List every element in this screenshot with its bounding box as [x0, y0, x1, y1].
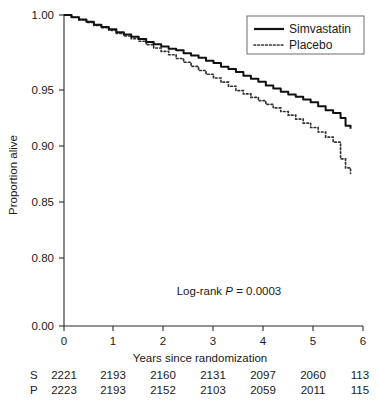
- risk-cell-s-3: 2131: [200, 369, 226, 381]
- risk-cell-p-3: 2103: [200, 384, 226, 396]
- x-tick-label-5: 5: [310, 335, 316, 347]
- risk-cell-p-1: 2193: [100, 384, 126, 396]
- x-tick-label-3: 3: [210, 335, 216, 347]
- risk-cell-p-2: 2152: [150, 384, 176, 396]
- survival-curve-figure: 1.00 0.95 0.90 0.85 0.80 0.00 Proportion…: [0, 0, 379, 405]
- logrank-prefix: Log-rank: [177, 285, 226, 297]
- y-axis-title: Proportion alive: [7, 135, 19, 215]
- risk-table-row-p: P 2223 2193 2152 2103 2059 2011 115: [30, 384, 369, 396]
- risk-cell-p-0: 2223: [51, 384, 77, 396]
- x-tick-label-2: 2: [160, 335, 166, 347]
- logrank-annotation: Log-rank P = 0.0003: [177, 285, 282, 297]
- x-tick-label-6: 6: [360, 335, 366, 347]
- y-tick-label-2: 0.95: [32, 84, 54, 96]
- risk-cell-s-0: 2221: [51, 369, 77, 381]
- risk-cell-s-2: 2160: [150, 369, 176, 381]
- risk-row-key-p: P: [30, 384, 38, 396]
- logrank-suffix: = 0.0003: [233, 285, 281, 297]
- y-axis-ticks: [59, 15, 64, 326]
- x-axis-title: Years since randomization: [133, 352, 267, 364]
- risk-row-key-s: S: [30, 369, 38, 381]
- y-tick-label-1: 1.00: [32, 9, 54, 21]
- risk-cell-p-4: 2059: [250, 384, 276, 396]
- x-tick-label-4: 4: [260, 335, 267, 347]
- x-axis-ticks: [64, 326, 363, 331]
- risk-cell-s-4: 2097: [250, 369, 276, 381]
- risk-cell-s-5: 2060: [300, 369, 326, 381]
- risk-cell-p-6: 115: [351, 384, 369, 396]
- y-tick-label-4: 0.85: [32, 196, 54, 208]
- legend: Simvastatin Placebo: [247, 16, 364, 54]
- legend-label-placebo: Placebo: [289, 38, 333, 52]
- risk-cell-s-6: 113: [351, 369, 369, 381]
- risk-cell-p-5: 2011: [301, 384, 326, 396]
- y-tick-label-6: 0.00: [32, 320, 54, 332]
- risk-cell-s-1: 2193: [100, 369, 126, 381]
- risk-table-row-s: S 2221 2193 2160 2131 2097 2060 113: [30, 369, 369, 381]
- y-tick-label-5: 0.80: [32, 252, 54, 264]
- x-tick-label-1: 1: [110, 335, 116, 347]
- x-tick-label-0: 0: [61, 335, 67, 347]
- y-tick-label-3: 0.90: [32, 140, 54, 152]
- risk-table: S 2221 2193 2160 2131 2097 2060 113 P 22…: [30, 369, 369, 396]
- kaplan-meier-chart: 1.00 0.95 0.90 0.85 0.80 0.00 Proportion…: [0, 0, 379, 405]
- legend-label-simvastatin: Simvastatin: [289, 22, 351, 36]
